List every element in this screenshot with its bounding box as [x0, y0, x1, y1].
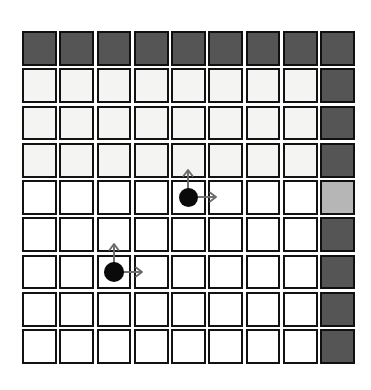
grid-cell-tinted — [171, 143, 206, 178]
agent-token — [179, 188, 199, 208]
grid-cell-wall — [171, 31, 206, 66]
grid-cell-tinted — [246, 68, 281, 103]
grid-cell-plain — [246, 292, 281, 327]
grid-cell-tinted — [22, 143, 57, 178]
grid-cell-wall — [320, 292, 355, 327]
grid-cell-tinted — [283, 68, 318, 103]
grid-cell-wall — [320, 255, 355, 290]
grid-cell-tinted — [97, 68, 132, 103]
grid-cell-plain — [283, 255, 318, 290]
grid-cell-plain — [59, 329, 94, 364]
grid-cell-plain — [97, 217, 132, 252]
grid-board — [21, 30, 356, 365]
grid-cell-tinted — [97, 106, 132, 141]
grid-cell-tinted — [283, 143, 318, 178]
grid-cell-tinted — [208, 68, 243, 103]
grid-cell-tinted — [283, 106, 318, 141]
grid-cell-tinted — [246, 143, 281, 178]
grid-cell-wall — [320, 106, 355, 141]
grid-cell-plain — [97, 255, 132, 290]
grid-cell-plain — [171, 217, 206, 252]
grid-cell-plain — [22, 255, 57, 290]
grid-cell-wall — [246, 31, 281, 66]
grid-cell-wall — [320, 68, 355, 103]
grid-cell-plain — [134, 329, 169, 364]
grid-cell-tinted — [171, 68, 206, 103]
grid-cell-plain — [246, 217, 281, 252]
grid-cell-wall — [208, 31, 243, 66]
grid-cell-tinted — [208, 106, 243, 141]
grid-cell-plain — [22, 180, 57, 215]
grid-cell-plain — [208, 180, 243, 215]
grid-cell-plain — [134, 255, 169, 290]
grid-cell-tinted — [22, 106, 57, 141]
grid-cell-plain — [171, 292, 206, 327]
grid-cell-plain — [134, 217, 169, 252]
grid-cell-wall — [320, 329, 355, 364]
grid-cell-tinted — [134, 106, 169, 141]
grid-cell-wall — [59, 31, 94, 66]
grid-cell-tinted — [171, 106, 206, 141]
grid-cell-plain — [246, 329, 281, 364]
grid-cell-tinted — [59, 106, 94, 141]
grid-cell-plain — [208, 329, 243, 364]
grid-cell-plain — [59, 180, 94, 215]
grid-cell-plain — [22, 292, 57, 327]
grid-cell-plain — [134, 292, 169, 327]
grid-cell-plain — [246, 180, 281, 215]
grid-cell-goal — [320, 180, 355, 215]
grid-cell-plain — [97, 292, 132, 327]
grid-cell-wall — [320, 217, 355, 252]
grid-cell-tinted — [134, 143, 169, 178]
grid-cell-wall — [97, 31, 132, 66]
grid-cell-plain — [59, 217, 94, 252]
grid-cell-plain — [59, 292, 94, 327]
grid-cell-plain — [171, 180, 206, 215]
grid-cell-wall — [22, 31, 57, 66]
grid-cell-plain — [283, 292, 318, 327]
grid-cell-plain — [208, 255, 243, 290]
gridworld-figure — [0, 0, 371, 390]
grid-cell-tinted — [134, 68, 169, 103]
grid-cell-plain — [283, 217, 318, 252]
agent-token — [104, 262, 124, 282]
grid-cell-plain — [246, 255, 281, 290]
grid-cell-tinted — [208, 143, 243, 178]
grid-cell-tinted — [59, 143, 94, 178]
grid-cell-plain — [59, 255, 94, 290]
grid-cell-plain — [97, 180, 132, 215]
grid-cell-plain — [283, 180, 318, 215]
grid-cell-tinted — [59, 68, 94, 103]
grid-cell-plain — [208, 217, 243, 252]
grid-cell-plain — [208, 292, 243, 327]
grid-cell-plain — [171, 329, 206, 364]
grid-cell-plain — [134, 180, 169, 215]
grid-cell-plain — [22, 217, 57, 252]
grid-cell-wall — [283, 31, 318, 66]
grid-cell-wall — [320, 31, 355, 66]
grid-cell-wall — [134, 31, 169, 66]
grid-cell-tinted — [246, 106, 281, 141]
grid-cell-wall — [320, 143, 355, 178]
grid-cell-plain — [171, 255, 206, 290]
grid-cell-plain — [22, 329, 57, 364]
grid-cell-tinted — [22, 68, 57, 103]
grid-cell-tinted — [97, 143, 132, 178]
grid-cell-plain — [97, 329, 132, 364]
grid-cell-plain — [283, 329, 318, 364]
